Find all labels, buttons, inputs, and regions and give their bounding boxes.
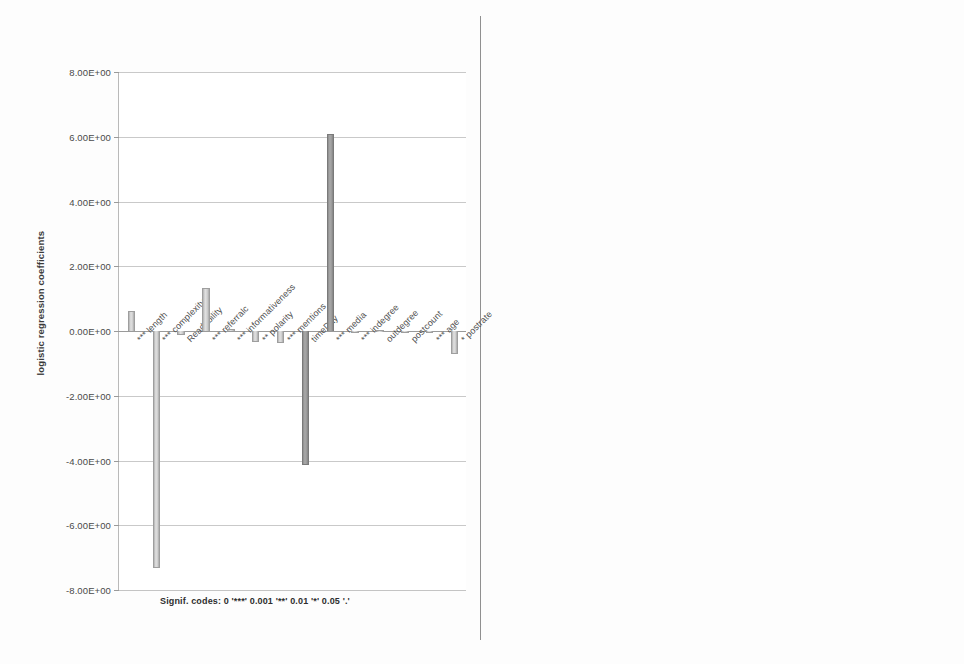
bar xyxy=(451,331,458,354)
bar xyxy=(327,134,334,331)
y-axis-tick-label: 0.00E+00 xyxy=(69,326,111,337)
figure-root: corporate logistic regression coefficien… xyxy=(0,0,964,664)
bar xyxy=(376,330,383,332)
bar xyxy=(351,331,358,333)
y-axis-tick xyxy=(114,72,119,73)
gridline xyxy=(119,72,466,73)
bar xyxy=(153,331,160,568)
y-axis-tick xyxy=(114,525,119,526)
bar xyxy=(252,331,259,342)
y-axis-tick xyxy=(114,331,119,332)
chart-panel-corporate: corporate logistic regression coefficien… xyxy=(0,0,480,664)
y-axis-tick-label: -8.00E+00 xyxy=(66,585,111,596)
gridline xyxy=(119,396,466,397)
bar xyxy=(401,331,408,333)
chart-panel-non-corporate: non-corporate logistic regression coeffi… xyxy=(484,0,964,664)
y-axis-tick xyxy=(114,266,119,267)
bar xyxy=(277,331,284,343)
bar xyxy=(202,288,209,331)
y-axis-tick xyxy=(114,461,119,462)
significance-codes-left: Signif. codes: 0 '***' 0.001 '**' 0.01 '… xyxy=(160,596,350,606)
y-axis-tick-label: -4.00E+00 xyxy=(66,455,111,466)
y-axis-tick-label: 2.00E+00 xyxy=(69,261,111,272)
y-axis-label-left: logistic regression coefficients xyxy=(35,236,46,376)
gridline xyxy=(119,461,466,462)
bar xyxy=(302,331,309,465)
gridline xyxy=(119,137,466,138)
bar xyxy=(426,331,433,333)
y-axis-tick-label: 4.00E+00 xyxy=(69,196,111,207)
y-axis-tick xyxy=(114,202,119,203)
bar xyxy=(227,329,234,331)
bar xyxy=(128,311,135,331)
y-axis-tick-label: 6.00E+00 xyxy=(69,131,111,142)
gridline xyxy=(119,266,466,267)
y-axis-tick xyxy=(114,396,119,397)
plot-area-corporate: 8.00E+006.00E+004.00E+002.00E+000.00E+00… xyxy=(118,72,466,590)
y-axis-tick-label: -6.00E+00 xyxy=(66,520,111,531)
y-axis-tick-label: 8.00E+00 xyxy=(69,67,111,78)
y-axis-tick xyxy=(114,137,119,138)
gridline xyxy=(119,202,466,203)
y-axis-tick-label: -2.00E+00 xyxy=(66,390,111,401)
plot-bottom-border xyxy=(119,590,466,591)
gridline xyxy=(119,525,466,526)
bar xyxy=(177,331,184,335)
